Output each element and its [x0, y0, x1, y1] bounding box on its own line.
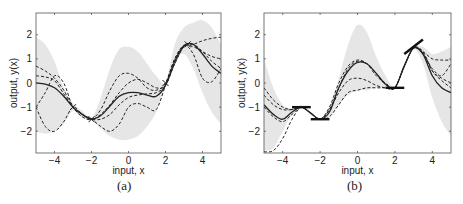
y-axis-label: output, y(x) — [236, 58, 247, 108]
y-tick-label: 2 — [254, 29, 260, 40]
y-tick-label: 0 — [26, 78, 32, 89]
figure: −4−2024−2−1012input, xoutput, y(x) −4−20… — [0, 0, 463, 204]
plots-svg: −4−2024−2−1012input, xoutput, y(x) −4−20… — [0, 0, 463, 204]
plot-panel-a: −4−2024−2−1012input, xoutput, y(x) — [8, 13, 221, 176]
panel-label-b: (b) — [347, 178, 362, 194]
x-tick-label: −4 — [277, 155, 289, 166]
y-tick-label: 0 — [254, 78, 260, 89]
panel-label-a: (a) — [117, 178, 131, 194]
y-tick-label: −2 — [21, 126, 33, 137]
plot-panel-b: −4−2024−2−1012input, xoutput, y(x) — [236, 13, 451, 176]
x-tick-label: −4 — [49, 155, 61, 166]
y-tick-label: 1 — [26, 53, 32, 64]
x-tick-label: −2 — [86, 155, 98, 166]
confidence-band — [264, 25, 451, 151]
x-tick-label: −2 — [314, 155, 326, 166]
y-tick-label: −1 — [249, 102, 261, 113]
x-tick-label: 4 — [430, 155, 436, 166]
y-axis-label: output, y(x) — [8, 58, 19, 108]
x-axis-label: input, x — [112, 165, 144, 176]
y-tick-label: −1 — [21, 102, 33, 113]
x-tick-label: 2 — [163, 155, 169, 166]
x-axis-label: input, x — [341, 165, 373, 176]
y-tick-label: 1 — [254, 53, 260, 64]
x-tick-label: 4 — [200, 155, 206, 166]
x-tick-label: 2 — [392, 155, 398, 166]
y-tick-label: 2 — [26, 29, 32, 40]
y-tick-label: −2 — [249, 126, 261, 137]
